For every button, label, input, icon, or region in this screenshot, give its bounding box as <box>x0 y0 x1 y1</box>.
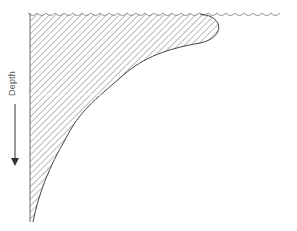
depth-profile-diagram <box>0 0 297 231</box>
depth-arrow-icon <box>11 104 19 166</box>
depth-axis-label: Depth <box>7 71 17 96</box>
